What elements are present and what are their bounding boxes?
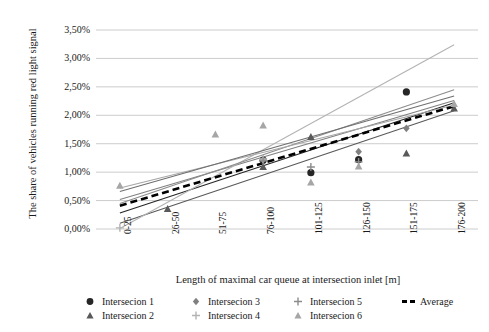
x-axis-tick: 51-75	[219, 212, 229, 234]
datapoint-intersecion-5	[307, 163, 315, 171]
trendline-intersecion-1	[120, 103, 454, 213]
datapoint-intersecion-6	[259, 122, 267, 129]
y-axis-tick: 1,50%	[44, 139, 90, 149]
x-axis-title: Length of maximal car queue at intersect…	[96, 274, 480, 285]
trendline-intersecion-6	[120, 105, 454, 188]
y-axis-tick-labels: 0,00%0,50%1,00%1,50%2,00%2,50%3,00%3,50%	[42, 0, 90, 332]
datapoint-intersecion-6	[307, 178, 315, 185]
legend-label: Intersecion 1	[102, 296, 154, 307]
y-axis-tick: 1,00%	[44, 167, 90, 177]
legend-label: Intersecion 3	[208, 296, 260, 307]
x-axis-tick: 176-200	[458, 202, 468, 234]
y-axis-tick: 3,00%	[44, 53, 90, 63]
x-axis-tick: 26-50	[172, 212, 182, 234]
y-axis-title: The share of vehicles running red light …	[27, 4, 38, 244]
x-axis-tick: 76-100	[267, 207, 277, 234]
chart-figure: 0,00%0,50%1,00%1,50%2,00%2,50%3,00%3,50%…	[0, 0, 489, 332]
y-axis-tick: 3,50%	[44, 25, 90, 35]
datapoint-intersecion-2	[403, 149, 411, 156]
y-axis-tick: 0,00%	[44, 224, 90, 234]
datapoint-intersecion-1	[403, 88, 410, 95]
legend-marker-triangle-icon	[292, 310, 306, 321]
legend-marker-plus-icon	[190, 310, 204, 321]
datapoint-intersecion-6	[355, 162, 363, 169]
legend-marker-dashed-line-icon	[402, 296, 416, 307]
y-axis-tick: 2,00%	[44, 110, 90, 120]
x-axis-tick: 0-25	[124, 217, 134, 234]
legend-label: Intersecion 4	[208, 310, 260, 321]
datapoint-intersecion-3	[355, 148, 362, 156]
datapoint-intersecion-6	[116, 182, 124, 189]
legend-label: Average	[420, 296, 453, 307]
y-axis-tick: 0,50%	[44, 196, 90, 206]
legend-label: Intersecion 6	[310, 310, 362, 321]
x-axis-tick: 126-150	[363, 202, 373, 234]
y-axis-tick: 2,50%	[44, 82, 90, 92]
x-axis-tick: 151-175	[410, 202, 420, 234]
legend-marker-triangle-icon	[84, 310, 98, 321]
legend-label: Intersecion 2	[102, 310, 154, 321]
datapoint-intersecion-6	[212, 131, 220, 138]
gridlines	[96, 30, 478, 229]
legend-marker-diamond-icon	[190, 296, 204, 307]
legend-label: Intersecion 5	[310, 296, 362, 307]
chart-legend: Intersecion 1Intersecion 2Intersecion 3I…	[84, 296, 484, 326]
legend-marker-circle-icon	[84, 296, 98, 307]
legend-marker-plus-icon	[292, 296, 306, 307]
x-axis-tick: 101-125	[315, 202, 325, 234]
